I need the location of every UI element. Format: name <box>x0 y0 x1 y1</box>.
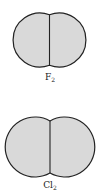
f2-molecule <box>13 13 86 67</box>
f2-label: F2 <box>30 72 70 85</box>
f2-subscript: 2 <box>51 76 55 83</box>
cl2-label: Cl2 <box>30 180 70 193</box>
cl2-subscript: 2 <box>53 184 57 191</box>
molecule-diagram <box>0 0 107 194</box>
cl2-molecule <box>5 117 95 177</box>
cl2-symbol: Cl <box>43 180 53 190</box>
